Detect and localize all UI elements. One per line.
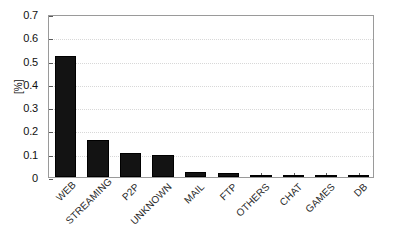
bar-streaming (87, 140, 109, 177)
bar-mail (185, 172, 207, 177)
y-axis-tick-label: 0.3 (23, 102, 38, 114)
plot-area (48, 15, 374, 178)
bar-db (348, 175, 370, 177)
bar-chart-figure: [%] 00.10.20.30.40.50.60.7 WEBSTREAMINGP… (0, 0, 394, 247)
y-axis-tick-label: 0 (32, 172, 38, 184)
y-axis-tick-labels: 00.10.20.30.40.50.60.7 (0, 15, 44, 178)
y-axis-tick-label: 0.7 (23, 9, 38, 21)
y-axis-tick-label: 0.1 (23, 149, 38, 161)
bar-unknown (152, 155, 174, 177)
bar-web (55, 56, 77, 177)
y-axis-tick-label: 0.4 (23, 79, 38, 91)
bar-p2p (120, 153, 142, 177)
bar-others (250, 175, 272, 177)
y-axis-tick-label: 0.5 (23, 56, 38, 68)
bar-chat (283, 175, 305, 177)
x-axis-tick-labels: WEBSTREAMINGP2PUNKNOWNMAILFTPOTHERSCHATG… (48, 178, 374, 244)
bar-ftp (218, 173, 240, 177)
y-axis-tick-label: 0.2 (23, 125, 38, 137)
x-axis-tick-label-web: WEB (54, 181, 76, 203)
bar-series (49, 16, 373, 177)
bar-games (315, 175, 337, 177)
y-axis-tick-label: 0.6 (23, 32, 38, 44)
